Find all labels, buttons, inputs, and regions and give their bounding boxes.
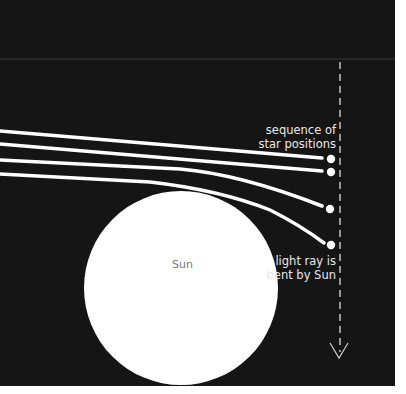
sun-disc	[84, 191, 278, 385]
bent-label-line2: bent by Sun	[256, 268, 336, 282]
arrow-down-icon	[330, 343, 348, 358]
sequence-label-line1: sequence of	[246, 123, 336, 137]
light-bending-diagram	[0, 0, 406, 394]
sequence-label-line2: star positions	[246, 137, 336, 151]
star-position-1	[327, 155, 335, 163]
star-position-2	[327, 168, 335, 176]
bent-label: light ray is bent by Sun	[256, 254, 336, 282]
bent-label-line1: light ray is	[256, 254, 336, 268]
sequence-label: sequence of star positions	[246, 123, 336, 151]
star-position-3	[326, 205, 334, 213]
sun-label: Sun	[172, 258, 193, 271]
star-position-4	[327, 241, 335, 249]
